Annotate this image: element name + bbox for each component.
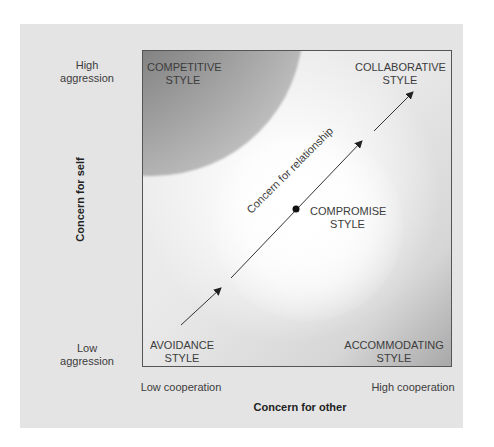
- relationship-arrows: [0, 0, 494, 447]
- arrow-segment-1: [181, 288, 221, 325]
- compromise-point: [293, 206, 300, 213]
- arrow-segment-3: [374, 92, 413, 131]
